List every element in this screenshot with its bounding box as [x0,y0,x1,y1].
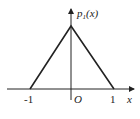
tick-label-1: 1 [110,93,116,105]
origin-label: O [74,93,82,105]
function-label: p1(x) [76,7,99,21]
triangle-pdf-diagram: p1(x) -1 O 1 x [0,0,140,119]
x-axis-label: x [126,93,132,105]
triangle-curve [30,26,114,89]
tick-label-neg1: -1 [24,93,33,105]
